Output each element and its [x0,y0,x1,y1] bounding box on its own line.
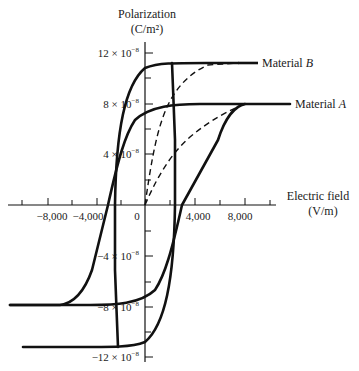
svg-text:8 × 10−8: 8 × 10−8 [103,97,139,110]
legend-material-a: Material A [295,97,347,111]
svg-text:−8,000: −8,000 [37,210,68,222]
svg-text:0: 0 [134,210,140,222]
svg-text:8,000: 8,000 [228,210,253,222]
x-axis-title-line2: (V/m) [308,204,337,218]
y-axis-title-line2: (C/m²) [131,22,163,36]
hysteresis-chart: Polarization (C/m²) 12 × 10−8 8 × 10−8 [0,0,359,371]
svg-text:−12 × 10−8: −12 × 10−8 [92,350,140,363]
material-a-initial-curve [145,104,245,205]
y-axis-title-line1: Polarization [118,7,176,21]
svg-text:−4 × 10−8: −4 × 10−8 [97,249,139,262]
legend-material-b: Material B [238,56,314,70]
x-axis-title-line1: Electric field [287,189,349,203]
svg-text:12 × 10−8: 12 × 10−8 [98,46,140,59]
material-b-initial-curve [145,63,238,205]
svg-text:4,000: 4,000 [186,210,211,222]
svg-text:Material A: Material A [295,97,347,111]
svg-text:−4,000: −4,000 [73,210,104,222]
svg-text:Material B: Material B [262,56,314,70]
